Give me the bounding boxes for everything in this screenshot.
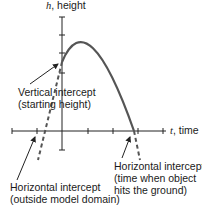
horizontal-axis (12, 128, 166, 134)
curve-extension-left (38, 62, 62, 160)
curve-extension-right (134, 131, 140, 160)
horizontal-intercept-left-sublabel: (outside model domain) (10, 193, 120, 205)
horizontal-intercept-left-label: Horizontal intercept (10, 181, 101, 193)
horizontal-intercept-right-sublabel2: hits the ground) (114, 184, 187, 196)
arrow-horizontal-intercept-right (122, 137, 130, 158)
vertical-axis-label: h, height (46, 0, 86, 11)
vertical-intercept-sublabel: (starting height) (18, 98, 91, 110)
projectile-height-diagram: h, height t, time Vertical intercept (st… (0, 0, 202, 210)
horizontal-intercept-right-label: Horizontal intercept (114, 160, 202, 172)
vertical-intercept-label: Vertical intercept (18, 86, 96, 98)
horizontal-axis-label: t, time (170, 124, 199, 136)
horizontal-intercept-right-sublabel: (time when object (114, 172, 196, 184)
arrow-vertical-intercept (30, 64, 58, 84)
vertical-axis (59, 17, 65, 150)
arrow-horizontal-intercept-left (17, 137, 35, 180)
